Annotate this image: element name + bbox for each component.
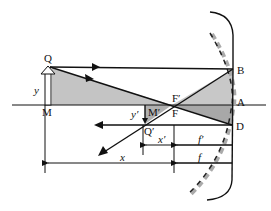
ray-diagram: Q y M B A D F′ F M′ Q′ y′ x′ f′ x f	[0, 0, 271, 211]
ray-arrow-1	[92, 63, 100, 71]
label-m-prime: M′	[148, 106, 160, 118]
label-f: F	[172, 107, 178, 119]
mirror-top-curve	[210, 12, 233, 69]
label-q-prime: Q′	[144, 125, 154, 137]
label-f-dist: f	[198, 151, 203, 163]
label-d: D	[236, 120, 244, 132]
label-f-prime: F′	[172, 92, 181, 104]
label-x-prime: x′	[157, 133, 166, 145]
label-a: A	[237, 96, 245, 108]
mirror-bottom-curve	[207, 180, 232, 200]
label-x: x	[119, 151, 125, 163]
ray-arrow-3	[98, 146, 108, 156]
object-arrow-shaft	[45, 72, 51, 105]
label-y: y	[33, 84, 39, 96]
label-b: B	[237, 64, 244, 76]
ray-q-to-b	[50, 67, 233, 69]
label-y-prime: y′	[130, 108, 139, 120]
label-m: M	[42, 106, 52, 118]
ray-arrow-4	[94, 121, 103, 129]
label-q: Q	[44, 52, 52, 64]
label-f-prime-dist: f′	[198, 133, 204, 145]
